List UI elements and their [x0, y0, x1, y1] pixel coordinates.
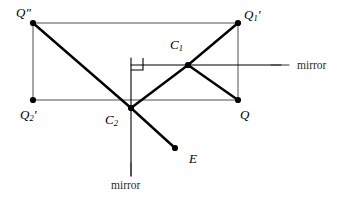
ray-C1-Qp1	[188, 23, 238, 65]
label-base-Qdd: Q	[16, 5, 25, 20]
point-dot-C2	[128, 105, 134, 111]
ray-diagram-figure: Q″Q1′Q2′QC1C2E mirrormirror	[0, 0, 344, 198]
point-label-Qp2: Q2′	[20, 108, 37, 123]
label-base-Q: Q	[240, 107, 249, 122]
point-dot-Qp1	[235, 20, 241, 26]
ray-Qdd-C2	[33, 23, 131, 108]
point-label-C2: C2	[105, 113, 118, 128]
label-subscript-C1: 1	[179, 43, 183, 53]
point-label-Q: Q	[240, 108, 249, 121]
point-dot-C1	[185, 62, 191, 68]
point-label-Qp1: Q1′	[244, 8, 261, 23]
point-label-C1: C1	[170, 38, 183, 53]
mirror-bottom-label: mirror	[111, 180, 140, 192]
ray-C2-E	[131, 108, 175, 148]
label-prime-Qp1: ′	[258, 7, 261, 22]
point-label-Qdd: Q″	[16, 6, 31, 19]
mirror-lines	[131, 58, 281, 176]
diagram-canvas	[0, 0, 344, 198]
label-prime-Qp2: ′	[34, 107, 37, 122]
right-angle-mark	[131, 58, 143, 70]
point-dot-E	[172, 145, 178, 151]
label-base-C1: C	[170, 37, 179, 52]
label-subscript-C2: 2	[114, 118, 118, 128]
label-base-Qp1: Q	[244, 7, 253, 22]
mirror-right-label: mirror	[297, 60, 326, 72]
point-label-E: E	[189, 152, 197, 165]
point-dot-Qp2	[30, 97, 36, 103]
point-dot-Q	[235, 97, 241, 103]
label-base-E: E	[189, 151, 197, 166]
point-dot-Qdd	[30, 20, 36, 26]
right-angle-marker	[131, 58, 143, 70]
point-markers	[30, 20, 241, 151]
construction-rectangle	[33, 23, 238, 100]
light-ray-paths	[33, 23, 238, 148]
label-prime-Qdd: ″	[25, 5, 30, 20]
label-base-Qp2: Q	[20, 107, 29, 122]
ray-C2-C1	[131, 65, 188, 108]
ray-C1-Q	[188, 65, 238, 100]
label-base-C2: C	[105, 112, 114, 127]
